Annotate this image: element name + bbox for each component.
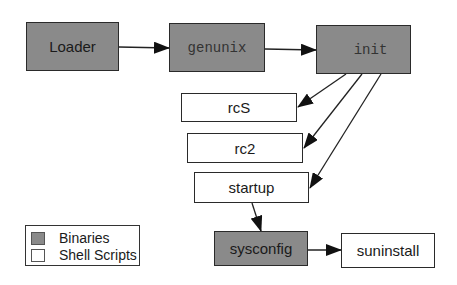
legend-label: Shell Scripts (59, 247, 137, 263)
node-init: init (316, 25, 411, 74)
legend-label: Binaries (59, 230, 110, 246)
node-genunix: genunix (169, 23, 265, 72)
node-label: init (354, 42, 388, 58)
node-loader: Loader (26, 22, 119, 71)
edge-genunix-init (265, 49, 316, 50)
node-sysconfig: sysconfig (214, 231, 308, 266)
shell-scripts-swatch-icon (31, 249, 45, 262)
node-label: suninstall (357, 242, 420, 259)
legend-item-binaries: Binaries (31, 230, 110, 246)
edge-startup-sysconfig (252, 203, 261, 231)
legend-item-shell-scripts: Shell Scripts (31, 247, 137, 263)
node-rcs: rcS (181, 93, 297, 122)
node-rc2: rc2 (187, 133, 303, 163)
node-label: rcS (228, 99, 251, 116)
node-startup: startup (194, 172, 309, 203)
edge-init-rcS (298, 74, 346, 107)
node-label: rc2 (235, 140, 256, 157)
edge-loader-genunix (119, 47, 169, 48)
node-label: Loader (49, 38, 96, 55)
binaries-swatch-icon (31, 232, 45, 245)
edge-init-rc2 (304, 74, 362, 148)
node-label: genunix (188, 40, 247, 56)
node-label: startup (229, 179, 275, 196)
legend: Binaries Shell Scripts (25, 225, 140, 266)
node-label: sysconfig (230, 240, 293, 257)
node-suninstall: suninstall (341, 233, 435, 268)
